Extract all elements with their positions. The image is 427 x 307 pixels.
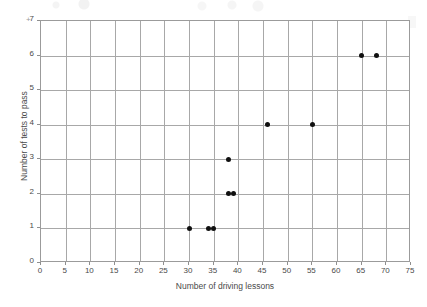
plot-area (40, 20, 410, 262)
x-tick-mark (262, 262, 263, 265)
y-tick-label: 6 (14, 49, 34, 58)
x-tick-mark (213, 262, 214, 265)
y-tick-label: 0 (14, 256, 34, 265)
y-tick-mark (37, 158, 40, 159)
x-tick-mark (336, 262, 337, 265)
x-tick-mark (89, 262, 90, 265)
x-tick-mark (139, 262, 140, 265)
x-tick-mark (65, 262, 66, 265)
y-tick-mark (37, 20, 40, 21)
y-tick-mark (37, 193, 40, 194)
y-axis-title: Number of tests to pass (19, 66, 29, 206)
x-tick-mark (410, 262, 411, 265)
y-tick-label: 1 (14, 221, 34, 230)
y-tick-mark (37, 262, 40, 263)
y-tick-mark (37, 89, 40, 90)
x-tick-mark (287, 262, 288, 265)
x-tick-mark (163, 262, 164, 265)
data-point (211, 226, 216, 231)
y-tick-mark (37, 227, 40, 228)
data-point (265, 122, 270, 127)
x-tick-mark (40, 262, 41, 265)
x-axis-title: Number of driving lessons (40, 281, 410, 291)
data-point (310, 122, 315, 127)
data-points-layer (41, 21, 409, 261)
data-point (187, 226, 192, 231)
x-tick-mark (311, 262, 312, 265)
data-point (231, 191, 236, 196)
data-point (359, 53, 364, 58)
scan-noise-artifact (0, 0, 427, 16)
x-tick-mark (188, 262, 189, 265)
x-tick-label: 75 (395, 266, 425, 275)
y-tick-mark (37, 55, 40, 56)
x-tick-mark (361, 262, 362, 265)
data-point (374, 53, 379, 58)
x-tick-mark (385, 262, 386, 265)
x-tick-mark (237, 262, 238, 265)
x-tick-mark (114, 262, 115, 265)
data-point (226, 157, 231, 162)
y-tick-label: 7 (14, 14, 34, 23)
y-tick-mark (37, 124, 40, 125)
scatter-chart-figure: + 051015202530354045505560657075 0123456… (0, 0, 427, 307)
